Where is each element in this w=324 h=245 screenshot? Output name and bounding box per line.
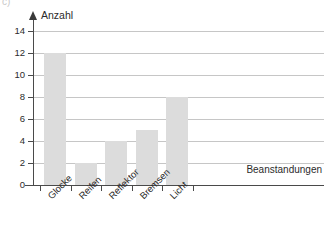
y-tick-mark (28, 31, 34, 32)
x-tick-mark (132, 186, 133, 191)
y-tick-label: 4 (3, 136, 25, 146)
y-tick-mark (28, 119, 34, 120)
y-tick-label: 10 (3, 70, 25, 80)
y-tick-mark (28, 141, 34, 142)
gridline (33, 75, 324, 76)
y-tick-mark (28, 97, 34, 98)
x-tick-mark (71, 186, 72, 191)
y-tick-mark (28, 53, 34, 54)
y-tick-label: 14 (3, 26, 25, 36)
x-tick-mark (40, 186, 41, 191)
y-tick-label: 2 (3, 158, 25, 168)
item-marker: c) (2, 0, 10, 7)
y-axis-title: Anzahl (41, 9, 73, 21)
x-tick-mark (162, 186, 163, 191)
y-axis-arrow-icon (29, 11, 37, 20)
x-tick-mark (193, 186, 194, 191)
y-tick-label: 8 (3, 92, 25, 102)
y-tick-mark (28, 75, 34, 76)
x-tick-mark (101, 186, 102, 191)
y-tick-label: 6 (3, 114, 25, 124)
y-tick-label: 12 (3, 48, 25, 58)
gridline (33, 31, 324, 32)
bar (44, 53, 66, 185)
y-tick-mark (28, 163, 34, 164)
bar-chart: c) Anzahl Beanstandungen 02468101214 Glo… (0, 0, 324, 245)
y-tick-mark (28, 185, 34, 186)
y-tick-label: 0 (3, 180, 25, 190)
gridline (33, 53, 324, 54)
